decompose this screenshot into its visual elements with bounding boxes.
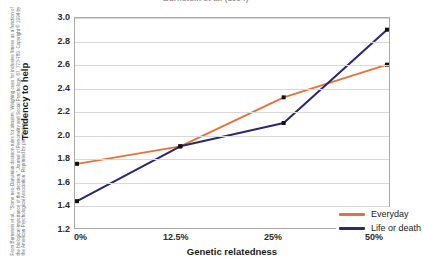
y-tick-label: 1.6 (44, 177, 70, 187)
y-tick-label: 1.8 (44, 153, 70, 163)
y-tick-label: 3.0 (44, 12, 70, 22)
gridline (75, 18, 389, 19)
y-axis-tick-labels: 3.0 2.8 2.6 2.4 2.2 2.0 1.8 1.6 1.4 1.2 (44, 17, 70, 229)
chart-legend: Everyday Life or death (336, 207, 424, 235)
y-tick-label: 2.8 (44, 36, 70, 46)
x-axis-title: Genetic relatedness (74, 246, 390, 257)
x-tick-label: 12.5% (163, 232, 189, 242)
legend-swatch-everyday (339, 213, 365, 216)
y-axis-title: Tendency to help (19, 48, 30, 156)
legend-swatch-life-or-death (339, 227, 365, 230)
gridline (75, 42, 389, 43)
gridline (75, 112, 389, 113)
y-tick-label: 2.4 (44, 83, 70, 93)
x-tick-label: 50% (365, 232, 383, 242)
gridline (75, 136, 389, 137)
y-tick-label: 1.2 (44, 224, 70, 234)
x-tick-label: 25% (264, 232, 282, 242)
gridline (75, 159, 389, 160)
x-tick-label: 0% (74, 232, 87, 242)
plot-area: Everyday Life or death (74, 17, 390, 229)
line-life-or-death (77, 30, 387, 202)
y-tick-label: 2.0 (44, 130, 70, 140)
line-everyday (77, 65, 387, 164)
series-lines (75, 18, 389, 228)
y-tick-label: 2.2 (44, 106, 70, 116)
gridline (75, 65, 389, 66)
gridline (75, 183, 389, 184)
y-tick-label: 1.4 (44, 200, 70, 210)
gridline (75, 89, 389, 90)
legend-label-everyday: Everyday (371, 209, 409, 219)
legend-item-everyday: Everyday (339, 209, 421, 219)
y-tick-label: 2.6 (44, 59, 70, 69)
